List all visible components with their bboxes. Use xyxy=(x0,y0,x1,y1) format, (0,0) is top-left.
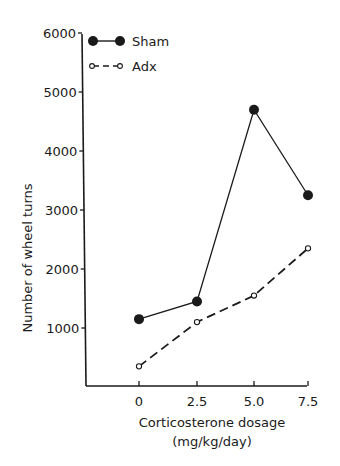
y-tick-label: 2000 xyxy=(46,262,79,277)
series-line xyxy=(139,248,308,366)
open-circle-marker xyxy=(136,364,141,369)
y-tick-label: 5000 xyxy=(44,85,77,100)
legend-label: Sham xyxy=(132,34,169,49)
open-circle-marker xyxy=(305,246,310,251)
y-tick-label: 4000 xyxy=(44,144,77,159)
x-tick-label: 7.5 xyxy=(298,394,319,409)
x-tick-label: 5.0 xyxy=(244,394,265,409)
y-tick-label: 6000 xyxy=(43,26,76,41)
series-adx xyxy=(136,246,310,369)
x-axis-title: Corticosterone dosage xyxy=(139,415,286,430)
filled-circle-marker xyxy=(249,105,259,115)
filled-circle-marker xyxy=(134,314,144,324)
filled-circle-icon xyxy=(88,36,98,46)
legend-item-adx: Adx xyxy=(90,59,157,74)
open-circle-marker xyxy=(251,293,256,298)
filled-circle-marker xyxy=(192,296,202,306)
filled-circle-icon xyxy=(115,36,125,46)
line-chart: 100020003000400050006000 02.55.07.5 Sham… xyxy=(0,0,340,466)
x-axis-units: (mg/kg/day) xyxy=(172,434,252,449)
x-tick-label: 2.5 xyxy=(187,394,208,409)
y-axis-title: Number of wheel turns xyxy=(20,183,35,332)
open-circle-icon xyxy=(90,64,95,69)
data-series xyxy=(134,105,313,369)
y-tick-label: 1000 xyxy=(46,321,79,336)
series-sham xyxy=(134,105,313,324)
chart-axes xyxy=(82,34,307,386)
open-circle-icon xyxy=(118,64,123,69)
filled-circle-marker xyxy=(303,190,313,200)
x-tick-label: 0 xyxy=(135,394,143,409)
y-axis-ticks: 100020003000400050006000 xyxy=(43,26,85,336)
legend-label: Adx xyxy=(132,59,157,74)
open-circle-marker xyxy=(194,320,199,325)
y-tick-label: 3000 xyxy=(45,203,78,218)
legend-item-sham: Sham xyxy=(88,34,169,49)
legend: ShamAdx xyxy=(88,34,169,74)
series-line xyxy=(139,110,308,319)
